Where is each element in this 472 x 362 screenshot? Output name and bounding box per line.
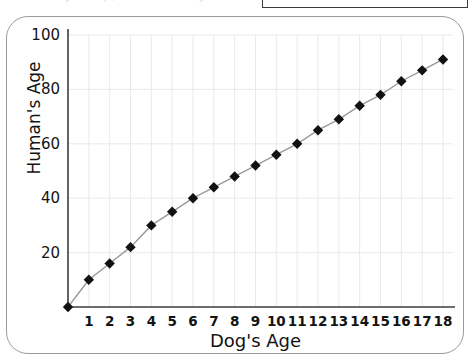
y-tick-label: 20 <box>16 244 60 262</box>
data-point-marker <box>417 65 427 75</box>
data-point-marker <box>209 182 219 192</box>
data-point-marker <box>313 125 323 135</box>
data-point-marker <box>438 54 448 64</box>
data-point-marker <box>334 114 344 124</box>
data-point-marker <box>396 76 406 86</box>
data-point-marker <box>375 90 385 100</box>
x-tick-label: 18 <box>431 313 455 329</box>
y-axis-title: Human's Age <box>24 38 44 198</box>
x-axis-title: Dog's Age <box>68 330 443 351</box>
chart-svg <box>0 0 472 362</box>
data-point-marker <box>167 207 177 217</box>
data-point-marker <box>271 149 281 159</box>
line-chart: 20406080100 123456789101112131415161718 … <box>0 0 472 362</box>
data-point-marker <box>188 193 198 203</box>
data-point-marker <box>250 160 260 170</box>
data-point-marker <box>354 101 364 111</box>
data-point-marker <box>229 171 239 181</box>
data-point-marker <box>292 139 302 149</box>
